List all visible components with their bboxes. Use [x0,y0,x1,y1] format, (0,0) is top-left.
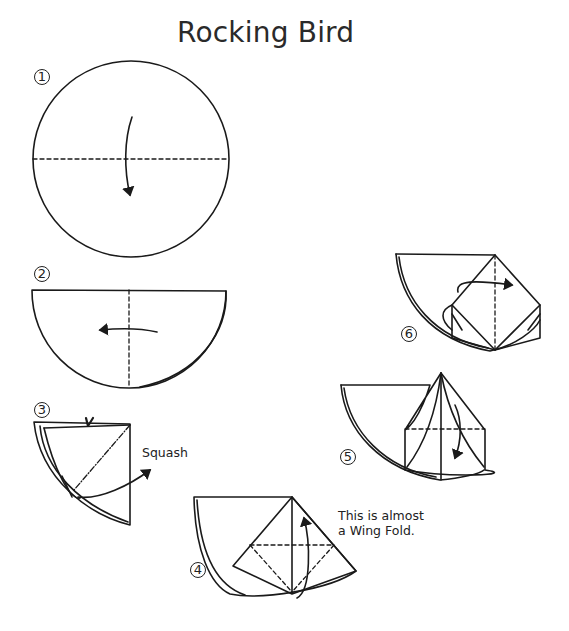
step-1-circle-diagram [33,61,229,257]
step-4-wing-fold-diagram [194,497,356,598]
step-2-semicircle-diagram [32,290,226,388]
step-3-squash-diagram [34,418,150,525]
step-6-diagram [396,254,540,351]
step-5-diagram [341,373,494,480]
